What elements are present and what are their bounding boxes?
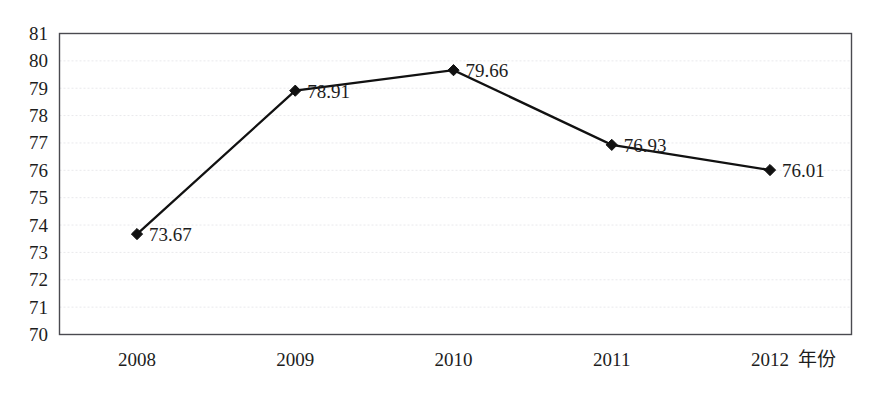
x-axis-tick-label: 2012 <box>751 349 789 370</box>
y-axis-tick-label: 79 <box>29 78 48 99</box>
y-axis-tick-label: 75 <box>29 187 48 208</box>
chart-canvas: 707172737475767778798081 200820092010201… <box>0 0 870 411</box>
x-axis-tick-label: 2009 <box>276 349 314 370</box>
y-axis-tick-label: 81 <box>29 23 48 44</box>
data-point-label: 76.93 <box>624 135 667 156</box>
y-axis-tick-label: 74 <box>29 215 49 236</box>
y-axis-tick-label: 77 <box>29 132 48 153</box>
data-point-label: 73.67 <box>149 224 192 245</box>
x-axis-tick-label: 2010 <box>435 349 473 370</box>
data-point-label: 79.66 <box>466 60 509 81</box>
y-axis-tick-label: 78 <box>29 105 48 126</box>
y-axis-tick-label: 76 <box>29 160 48 181</box>
y-axis-tick-label: 80 <box>29 50 48 71</box>
y-axis-tick-label: 71 <box>29 297 48 318</box>
data-point-label: 76.01 <box>782 160 825 181</box>
data-point-label: 78.91 <box>307 81 350 102</box>
x-axis-tick-label: 2011 <box>593 349 630 370</box>
line-chart: 707172737475767778798081 200820092010201… <box>0 0 870 411</box>
y-axis-tick-label: 70 <box>29 324 48 345</box>
x-axis-tick-label: 2008 <box>118 349 156 370</box>
y-axis-tick-label: 72 <box>29 269 48 290</box>
y-axis-tick-label: 73 <box>29 242 48 263</box>
x-axis-title: 年份 <box>798 349 836 370</box>
